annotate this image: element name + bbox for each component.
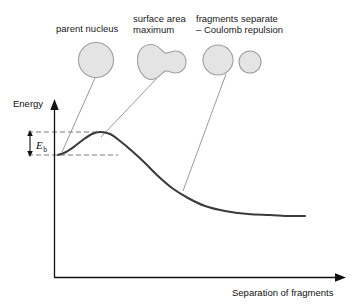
- axes-group: [50, 99, 346, 282]
- fragment-small-shape: [239, 51, 261, 73]
- callout-label-fragments-line2: – Coulomb repulsion: [196, 24, 283, 35]
- callout-label-surface-area-line2: maximum: [133, 24, 174, 35]
- diagram-canvas: parent nucleus surface area maximum frag…: [0, 0, 358, 306]
- callout-label-parent-nucleus: parent nucleus: [56, 23, 119, 34]
- fission-energy-diagram: parent nucleus surface area maximum frag…: [0, 0, 358, 306]
- barrier-energy-arrow: [27, 130, 33, 157]
- y-axis-arrowhead: [50, 99, 58, 110]
- x-axis-arrowhead: [335, 273, 346, 281]
- fragment-large-shape: [203, 45, 233, 75]
- callout-label-surface-area-line1: surface area: [133, 13, 187, 24]
- x-axis-label: Separation of fragments: [232, 287, 334, 298]
- surface-area-maximum-shape: [138, 44, 187, 79]
- y-axis-label: Energy: [13, 98, 43, 109]
- barrier-energy-subscript: b: [43, 145, 47, 154]
- leader-line-parent-nucleus: [62, 78, 95, 152]
- barrier-energy-symbol: E: [35, 139, 43, 151]
- callout-label-fragments-line1: fragments separate: [196, 13, 278, 24]
- parent-nucleus-shape: [79, 43, 114, 78]
- potential-energy-curve: [58, 132, 305, 216]
- leader-line-surface-area-maximum: [101, 75, 160, 137]
- leader-line-fragments-separate: [183, 74, 226, 191]
- barrier-energy-label: Eb: [35, 139, 47, 154]
